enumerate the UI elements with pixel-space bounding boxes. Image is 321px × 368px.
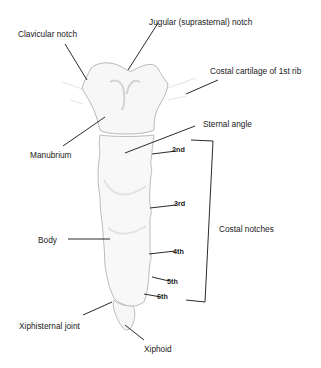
label-clavicular-notch: Clavicular notch bbox=[18, 30, 77, 38]
leader-xiphisternal-joint bbox=[83, 302, 112, 315]
leader-manubrium bbox=[63, 117, 105, 146]
label-xiphisternal-joint: Xiphisternal joint bbox=[19, 322, 80, 330]
label-costal-notches: Costal notches bbox=[219, 225, 274, 233]
label-sternal-angle: Sternal angle bbox=[203, 120, 252, 128]
leader-xiphoid bbox=[125, 325, 144, 340]
label-xiphoid: Xiphoid bbox=[144, 345, 172, 353]
label-jugular-notch: Jugular (suprasternal) notch bbox=[149, 18, 252, 26]
leader-jugular-notch bbox=[128, 23, 158, 70]
sternal-body-shape bbox=[98, 135, 154, 306]
label-notch-6th: 6th bbox=[157, 293, 168, 300]
label-notch-3rd: 3rd bbox=[174, 200, 185, 207]
label-notch-4th: 4th bbox=[173, 248, 184, 255]
label-body: Body bbox=[38, 236, 57, 244]
label-costal-cartilage-1st-rib: Costal cartilage of 1st rib bbox=[210, 67, 301, 75]
sternum-diagram bbox=[0, 0, 321, 368]
leader-3rd bbox=[150, 205, 176, 208]
label-notch-5th: 5th bbox=[167, 278, 178, 285]
leader-clavicular-notch bbox=[65, 44, 87, 80]
leader-4th bbox=[149, 251, 175, 254]
label-notch-2nd: 2nd bbox=[172, 146, 185, 153]
label-manubrium: Manubrium bbox=[30, 151, 72, 159]
costal-notches-bracket bbox=[186, 140, 213, 302]
leader-costal-cartilage bbox=[186, 80, 218, 94]
